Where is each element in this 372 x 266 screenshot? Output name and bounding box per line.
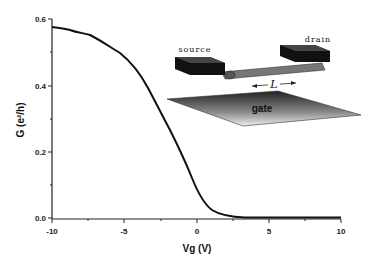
length-label: L bbox=[269, 78, 277, 91]
x-tick-label: 5 bbox=[267, 227, 272, 236]
y-axis-label: G (e²/h) bbox=[15, 103, 26, 138]
y-tick-label: 0.6 bbox=[35, 15, 47, 24]
drain-label: drain bbox=[305, 35, 331, 44]
x-ticks bbox=[52, 219, 341, 223]
x-tick-label: 0 bbox=[195, 227, 200, 236]
x-tick-label: -5 bbox=[120, 227, 128, 236]
x-tick-label: -10 bbox=[46, 227, 58, 236]
y-tick-label: 0.2 bbox=[35, 148, 47, 157]
x-tick-label: 10 bbox=[337, 227, 346, 236]
y-tick-label: 0.0 bbox=[35, 214, 47, 223]
inset-device-diagram: gate source drain L bbox=[167, 35, 361, 126]
nanotube bbox=[222, 63, 325, 79]
x-axis-label: Vg (V) bbox=[183, 243, 212, 254]
chart: 0.6 0.4 0.2 0.0 -10 -5 0 5 10 Vg (V) G (… bbox=[0, 0, 372, 266]
y-tick-label: 0.4 bbox=[35, 82, 47, 91]
source-label: source bbox=[178, 45, 211, 54]
gate-label: gate bbox=[252, 103, 273, 114]
